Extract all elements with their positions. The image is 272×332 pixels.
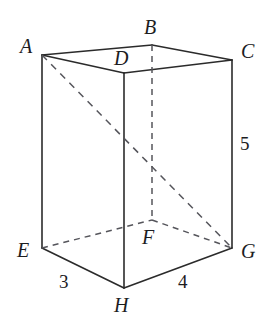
solid-edges-group [42, 45, 232, 288]
edge-length-eh: 3 [59, 272, 69, 291]
edge-dc [124, 60, 232, 73]
diagonal-ag [42, 55, 232, 248]
vertex-label-g: G [241, 241, 255, 261]
hidden-edges-group [42, 45, 232, 248]
vertex-label-a: A [20, 36, 32, 56]
prism-drawing [0, 0, 272, 332]
edge-ef [42, 220, 152, 248]
vertex-label-e: E [17, 240, 29, 260]
edge-ad [42, 55, 124, 73]
edge-length-hg: 4 [178, 272, 188, 291]
vertex-label-c: C [241, 41, 254, 61]
vertex-label-f: F [142, 227, 154, 247]
edge-ab [42, 45, 152, 55]
prism-figure: ABCDEFGH 345 [0, 0, 272, 332]
edge-fg [152, 220, 232, 248]
vertex-label-h: H [114, 295, 128, 315]
edge-bc [152, 45, 232, 60]
vertex-label-d: D [114, 48, 128, 68]
edge-eh [42, 248, 124, 288]
vertex-label-b: B [144, 17, 156, 37]
diagonals-group [42, 55, 232, 248]
edge-length-cg: 5 [240, 134, 250, 153]
